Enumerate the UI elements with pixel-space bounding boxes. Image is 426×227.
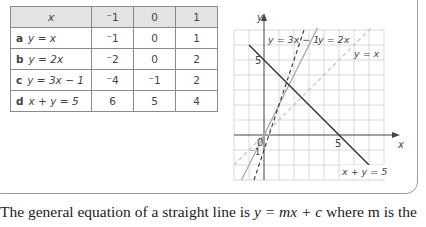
label-y-x: y = x bbox=[353, 48, 380, 59]
label-x-plus-y-5: x + y = 5 bbox=[341, 166, 387, 177]
x-axis-arrow-icon bbox=[392, 132, 400, 138]
body-paragraph: The general equation of a straight line … bbox=[0, 203, 417, 221]
tick-x-5: 5 bbox=[335, 138, 341, 149]
tick-y-5: 5 bbox=[255, 55, 261, 66]
tick-y-neg1: ⁻1 bbox=[250, 147, 260, 157]
label-y-2x: y = 2x bbox=[317, 34, 350, 45]
label-y-3x-minus-1: y = 3x − 1 bbox=[267, 34, 319, 45]
paragraph-text-before: The general equation of a straight line … bbox=[0, 203, 254, 220]
line-graph: y x 0 ⁻1 5 5 y = 3x − 1 y = 2x y = x x +… bbox=[0, 0, 426, 200]
y-axis-label: y bbox=[256, 12, 264, 23]
paragraph-text-after: where m is the bbox=[322, 203, 417, 220]
paragraph-equation: y = mx + c bbox=[254, 203, 322, 220]
x-axis-label: x bbox=[397, 139, 404, 150]
